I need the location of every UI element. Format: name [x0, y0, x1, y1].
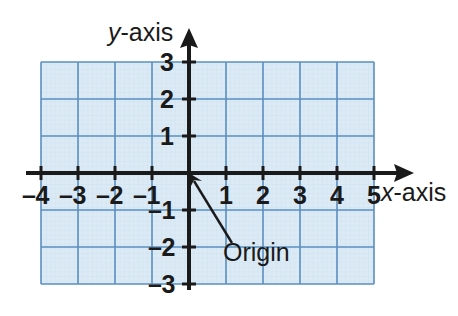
x-axis-suffix: -axis	[394, 178, 447, 206]
y-tick-label-2: 2	[160, 87, 173, 112]
y-tick-label--2: –2	[148, 235, 175, 260]
coordinate-plane-svg	[0, 0, 458, 316]
x-tick-label-5: 5	[367, 183, 380, 208]
origin-label: Origin	[223, 240, 290, 265]
x-tick-label-2: 2	[256, 183, 269, 208]
y-tick-label-3: 3	[160, 50, 173, 75]
x-axis-title: x-axis	[381, 180, 446, 205]
y-axis-suffix: -axis	[121, 18, 174, 46]
y-tick-label-1: 1	[160, 124, 173, 149]
y-axis-variable: y	[108, 18, 121, 46]
y-axis-title: y-axis	[108, 20, 173, 45]
coordinate-plane-figure: –4 –3 –2 –1 1 2 3 4 5 3 2 1 –1 –2 –3 y-a…	[0, 0, 458, 316]
x-tick-label-1: 1	[219, 183, 232, 208]
x-tick-label--2: –2	[96, 183, 123, 208]
x-tick-label--4: –4	[22, 183, 49, 208]
x-tick-label--3: –3	[59, 183, 86, 208]
y-tick-label--3: –3	[148, 272, 175, 297]
x-tick-label-4: 4	[330, 183, 343, 208]
x-axis-variable: x	[381, 178, 394, 206]
y-tick-label--1: –1	[148, 198, 175, 223]
x-tick-label-3: 3	[293, 183, 306, 208]
